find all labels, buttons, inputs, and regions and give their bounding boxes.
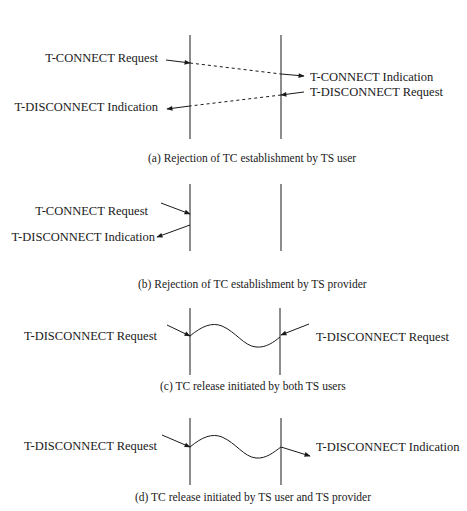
label-disconnect-request: T-DISCONNECT Request [24,439,157,453]
arrow-connect-request [166,60,190,63]
label-connect-indication: T-CONNECT Indication [310,70,433,84]
arrow-connect-indication [281,74,304,76]
wave-release [190,324,280,347]
label-disconnect-request: T-DISCONNECT Request [310,85,443,99]
label-disconnect-indication: T-DISCONNECT Indication [15,100,158,114]
arrow-disconnect-request-right [281,324,309,335]
label-connect-request: T-CONNECT Request [35,204,148,218]
caption-d: (d) TC release initiated by TS user and … [135,490,371,504]
arrow-connect-request [161,203,190,214]
caption-a: (a) Rejection of TC establishment by TS … [148,151,356,165]
dashed-disconnect-path [190,95,281,106]
label-connect-request: T-CONNECT Request [45,51,158,65]
panel-b-diagram [157,184,281,251]
arrow-disconnect-indication [281,447,310,456]
label-disconnect-request-right: T-DISCONNECT Request [316,330,449,344]
panel-c-diagram [167,308,309,375]
arrow-disconnect-request-left [167,325,190,336]
arrow-disconnect-request [281,92,304,95]
arrow-disconnect-request [162,435,190,447]
panel-d-diagram [162,418,310,485]
caption-c: (c) TC release initiated by both TS user… [160,379,346,393]
caption-b: (b) Rejection of TC establishment by TS … [138,277,367,291]
arrow-disconnect-indication [157,225,190,237]
dashed-connect-path [190,63,281,74]
arrow-disconnect-indication [167,106,190,109]
label-disconnect-request-left: T-DISCONNECT Request [24,329,157,343]
label-disconnect-indication: T-DISCONNECT Indication [316,440,459,454]
panel-a-diagram [166,35,304,139]
label-disconnect-indication: T-DISCONNECT Indication [12,230,155,244]
wave-release [190,435,281,458]
